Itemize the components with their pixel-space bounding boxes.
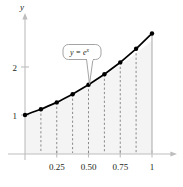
data-point bbox=[118, 60, 122, 64]
data-point bbox=[55, 100, 59, 104]
y-axis-arrowhead bbox=[22, 13, 27, 20]
callout-label-exponent: x bbox=[86, 47, 90, 53]
data-point bbox=[70, 92, 74, 96]
callout-label: y = ex bbox=[69, 47, 90, 57]
callout-pointer bbox=[87, 59, 94, 84]
data-point bbox=[39, 107, 43, 111]
callout-joint-mask bbox=[87, 57, 93, 60]
y-tick-label-2: 2 bbox=[13, 63, 18, 73]
figure-exponential-riemann-sum: y = ex y 2 1 0.25 0.50 0.75 1 bbox=[0, 0, 183, 187]
x-axis-arrowhead bbox=[170, 152, 177, 157]
x-tick-label-050: 0.50 bbox=[81, 162, 97, 172]
x-tick-label-075: 0.75 bbox=[112, 162, 128, 172]
y-axis-label: y bbox=[19, 2, 24, 12]
callout-label-base: y = e bbox=[69, 48, 87, 57]
chart-svg: y = ex y 2 1 0.25 0.50 0.75 1 bbox=[0, 0, 183, 187]
data-point bbox=[150, 31, 154, 35]
data-point bbox=[23, 113, 27, 117]
x-tick-label-025: 0.25 bbox=[49, 162, 65, 172]
data-point bbox=[102, 72, 106, 76]
x-tick-label-1: 1 bbox=[150, 162, 155, 172]
y-tick-label-1: 1 bbox=[13, 111, 18, 121]
data-point bbox=[134, 47, 138, 51]
